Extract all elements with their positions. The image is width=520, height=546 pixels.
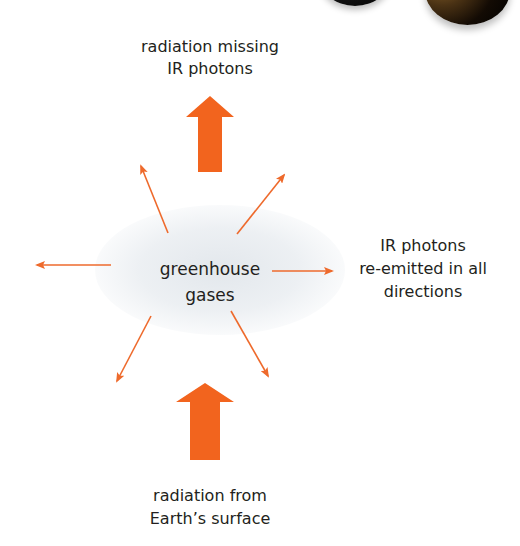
reemit-arrow-up-right <box>237 175 284 234</box>
outgoing-label-line2: IR photons <box>100 58 320 80</box>
reemit-arrow-up-left <box>141 166 168 233</box>
bottom-label-line2: Earth’s surface <box>100 507 320 530</box>
greenhouse-gases-label: greenhouse gases <box>125 256 295 308</box>
bottom-label-line1: radiation from <box>100 484 320 507</box>
right-label-line3: directions <box>338 280 508 303</box>
reemit-arrow-down-left <box>117 316 151 381</box>
outgoing-label-line1: radiation missing <box>100 36 320 58</box>
reemit-arrow-down-right <box>231 311 268 376</box>
earth-radiation-arrow <box>176 383 234 460</box>
earth-radiation-label: radiation from Earth’s surface <box>100 484 320 530</box>
reemitted-photons-label: IR photons re-emitted in all directions <box>338 234 508 303</box>
center-label-line1: greenhouse <box>125 256 295 282</box>
diagram-canvas: radiation missing IR photons greenhouse … <box>0 0 520 546</box>
center-label-line2: gases <box>125 282 295 308</box>
right-label-line2: re-emitted in all <box>338 257 508 280</box>
outgoing-radiation-label: radiation missing IR photons <box>100 36 320 80</box>
outgoing-radiation-arrow <box>186 96 234 172</box>
right-label-line1: IR photons <box>338 234 508 257</box>
